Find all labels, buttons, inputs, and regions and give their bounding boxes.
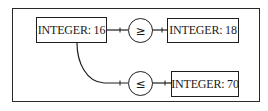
node-integer-70: INTEGER: 70 [171,71,239,97]
operator-greater-or-equal: ≥ [128,18,153,43]
node-integer-18: INTEGER: 18 [167,18,239,43]
operator-less-or-equal: ≤ [128,71,153,96]
node-label: INTEGER: 16 [38,23,105,38]
diagram-canvas: INTEGER: 16 ≥ INTEGER: 18 ≤ INTEGER: 70 [0,0,268,111]
node-label: INTEGER: 70 [171,77,238,92]
edge-op2-n3 [152,81,171,86]
edge-n1-op2 [77,43,128,86]
node-label: INTEGER: 18 [169,23,236,38]
operator-symbol: ≥ [135,24,145,38]
edge-op1-n2 [152,28,167,33]
edge-n1-op1 [106,28,128,33]
operator-symbol: ≤ [135,77,145,91]
node-integer-16: INTEGER: 16 [36,17,107,43]
